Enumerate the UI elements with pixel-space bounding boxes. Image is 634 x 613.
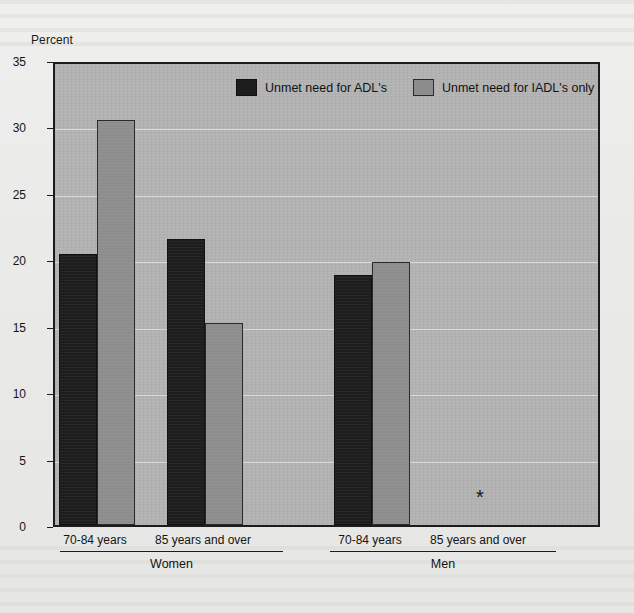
y-axis-tick-mark (47, 195, 53, 196)
bar-texture (168, 240, 204, 524)
x-axis-group-rule (330, 551, 556, 552)
x-axis-group-label-women: Women (150, 557, 193, 571)
y-axis-tick-mark (47, 461, 53, 462)
plot-paper-grain (55, 64, 598, 525)
x-axis-category-label: 85 years and over (155, 533, 251, 547)
y-axis-tick-label: 10 (2, 387, 26, 401)
y-axis-tick-mark (47, 328, 53, 329)
x-axis-group-rule (60, 551, 283, 552)
x-axis-category-label: 70-84 years (63, 533, 126, 547)
gridline (55, 196, 598, 197)
y-axis-tick-label: 15 (2, 321, 26, 335)
y-axis-tick-mark (47, 128, 53, 129)
plot-area: * (53, 62, 600, 527)
bar-adl-0 (59, 254, 97, 525)
y-axis-tick-mark (47, 62, 53, 63)
y-axis-title: Percent (31, 33, 73, 47)
y-axis-tick-mark (47, 394, 53, 395)
bar-texture (335, 276, 371, 524)
y-axis-tick-label: 0 (2, 520, 26, 534)
gridline (55, 395, 598, 396)
y-axis-tick-label: 25 (2, 188, 26, 202)
bar-adl-1 (167, 239, 205, 525)
chart-legend: Unmet need for ADL's Unmet need for IADL… (236, 79, 594, 96)
gridline (55, 262, 598, 263)
y-axis-tick-mark (47, 527, 53, 528)
gridline (55, 129, 598, 130)
no-data-asterisk: * (476, 487, 484, 507)
y-axis-tick-mark (47, 261, 53, 262)
legend-label-adl: Unmet need for ADL's (265, 81, 387, 95)
bar-texture (206, 324, 242, 524)
gridline (55, 329, 598, 330)
bar-texture (373, 263, 409, 524)
y-axis-tick-label: 35 (2, 55, 26, 69)
x-axis-category-label: 85 years and over (430, 533, 526, 547)
legend-item-iadl: Unmet need for IADL's only (413, 79, 594, 96)
bar-chart: Percent * 05101520253035 Unmet need for … (0, 0, 634, 613)
bar-adl-2 (334, 275, 372, 525)
legend-label-iadl: Unmet need for IADL's only (442, 81, 594, 95)
gridline (55, 462, 598, 463)
bar-texture (60, 255, 96, 524)
legend-item-adl: Unmet need for ADL's (236, 79, 387, 96)
bar-iadl-1 (205, 323, 243, 525)
x-axis-category-label: 70-84 years (338, 533, 401, 547)
y-axis-tick-label: 30 (2, 121, 26, 135)
bar-iadl-0 (97, 120, 135, 525)
x-axis-group-label-men: Men (431, 557, 455, 571)
legend-swatch-adl (236, 79, 257, 96)
bar-iadl-2 (372, 262, 410, 525)
legend-swatch-iadl (413, 79, 434, 96)
y-axis-tick-label: 5 (2, 454, 26, 468)
bar-texture (98, 121, 134, 524)
y-axis-tick-label: 20 (2, 254, 26, 268)
